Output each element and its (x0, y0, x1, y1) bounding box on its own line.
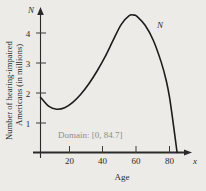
y-axis-symbol: N (27, 5, 35, 15)
y-axis-title-line2: Americans (in millions) (14, 44, 24, 126)
x-tick-label: 20 (65, 156, 75, 166)
x-axis-symbol: x (192, 156, 197, 166)
y-axis-title: Number of hearing-impaired Americans (in… (4, 41, 24, 140)
y-tick-label: 4 (26, 29, 31, 39)
x-tick-label: 40 (98, 156, 108, 166)
y-axis-title-line1: Number of hearing-impaired (4, 41, 14, 140)
y-axis-arrow-icon (37, 7, 44, 15)
chart-figure: N x N 4 3 2 1 20 40 60 80 Domain: [0, 84… (0, 0, 206, 191)
y-axis (37, 7, 44, 158)
y-tick-label: 3 (26, 59, 31, 69)
y-tick-label: 2 (26, 89, 31, 99)
chart-svg: N x N 4 3 2 1 20 40 60 80 Domain: [0, 84… (0, 0, 206, 191)
x-axis-title: Age (115, 172, 130, 182)
y-tick-label: 1 (26, 119, 31, 129)
domain-annotation: Domain: [0, 84.7] (58, 130, 123, 140)
x-axis-arrow-icon (184, 149, 192, 155)
x-axis (33, 149, 192, 155)
curve-label: N (156, 20, 164, 30)
x-tick-label: 80 (165, 156, 175, 166)
x-tick-label: 60 (132, 156, 142, 166)
